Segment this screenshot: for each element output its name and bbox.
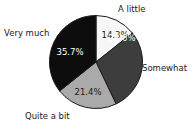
pie-label-somewhat: Somewhat <box>142 63 187 73</box>
pie-label-quite-a-bit: Quite a bit <box>25 111 70 121</box>
pie-label-very-much: Very much <box>4 28 49 38</box>
pie-label-a-little: A little <box>118 4 146 14</box>
pie-svg <box>49 15 143 109</box>
pie-chart: 14.3% 28.6% 21.4% 35.7% A little Somewha… <box>0 0 195 129</box>
pie-graphic: 14.3% 28.6% 21.4% 35.7% <box>49 15 143 109</box>
